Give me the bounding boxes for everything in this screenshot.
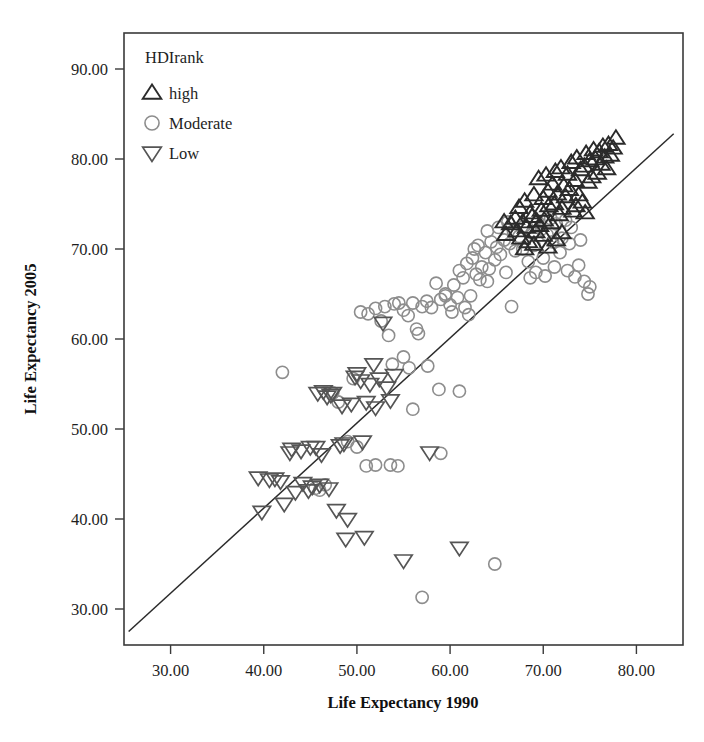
point-moderate [453,264,465,276]
legend-marker-high [143,84,162,98]
point-low [253,506,270,519]
x-axis-title: Life Expectancy 1990 [327,693,478,712]
point-moderate [459,301,471,313]
y-tick-label: 90.00 [71,60,108,79]
scatter-chart: 30.0040.0050.0060.0070.0080.00 30.0040.0… [0,0,704,742]
point-moderate [433,383,445,395]
y-tick-label: 40.00 [71,510,108,529]
point-moderate [453,385,465,397]
point-low [451,542,468,555]
point-moderate [397,351,409,363]
x-tick-label: 40.00 [245,661,282,680]
legend: HDIrank highModerateLow [143,48,233,163]
point-moderate [500,266,512,278]
legend-marker-moderate [145,116,159,130]
point-low [339,514,356,527]
point-moderate [463,309,475,321]
legend-title: HDIrank [145,48,204,67]
point-moderate [422,360,434,372]
series-high-points [495,130,624,254]
legend-label-high: high [169,84,199,103]
y-tick-label: 80.00 [71,150,108,169]
point-moderate [472,239,484,251]
y-tick-label: 30.00 [71,600,108,619]
x-tick-label: 50.00 [338,661,375,680]
y-axis-tick-labels: 30.0040.0050.0060.0070.0080.0090.00 [71,60,108,619]
y-tick-label: 50.00 [71,420,108,439]
point-moderate [457,272,469,284]
point-low [337,533,354,546]
point-moderate [489,558,501,570]
x-tick-label: 60.00 [432,661,469,680]
point-moderate [430,277,442,289]
point-moderate [468,243,480,255]
legend-entries: highModerateLow [143,84,233,163]
x-tick-label: 30.00 [152,661,189,680]
x-tick-label: 70.00 [525,661,562,680]
point-moderate [573,259,585,271]
series-low-points [249,317,468,568]
point-low [356,532,373,545]
x-axis-tick-labels: 30.0040.0050.0060.0070.0080.00 [152,661,655,680]
point-moderate [416,591,428,603]
point-low [276,498,293,511]
point-moderate [369,459,381,471]
y-tick-label: 60.00 [71,330,108,349]
point-low [395,555,412,568]
point-low [386,370,403,383]
point-moderate [505,300,517,312]
point-moderate [412,327,424,339]
series-moderate-points [276,212,596,603]
y-axis-title: Life Expectancy 2005 [21,263,40,414]
point-moderate [276,366,288,378]
point-moderate [574,234,586,246]
point-moderate [386,358,398,370]
point-moderate [561,264,573,276]
legend-label-low: Low [169,144,199,163]
point-low [365,359,382,372]
x-axis-ticks [171,645,637,654]
point-moderate [446,306,458,318]
y-axis-ticks [115,69,124,609]
point-moderate [481,225,493,237]
point-moderate [407,403,419,415]
x-tick-label: 80.00 [618,661,655,680]
point-low [328,505,345,518]
point-moderate [548,261,560,273]
plot-svg: 30.0040.0050.0060.0070.0080.00 30.0040.0… [0,0,704,742]
y-tick-label: 70.00 [71,240,108,259]
point-moderate [483,263,495,275]
legend-marker-low [143,147,162,161]
point-moderate [464,290,476,302]
point-moderate [382,329,394,341]
legend-label-moderate: Moderate [169,114,232,133]
point-moderate [392,460,404,472]
